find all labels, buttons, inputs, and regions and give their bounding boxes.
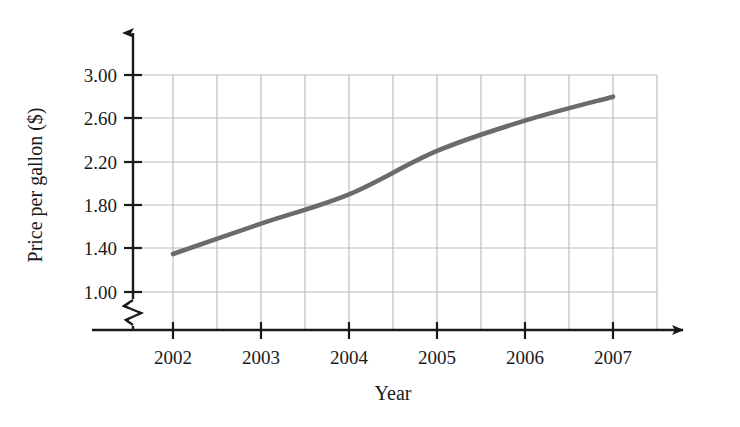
x-tick-label: 2002: [154, 347, 192, 368]
x-tick-label: 2006: [506, 347, 544, 368]
y-tick-label: 2.20: [84, 152, 117, 173]
y-tick-label: 2.60: [84, 108, 117, 129]
y-tick-label: 3.00: [84, 65, 117, 86]
line-chart: 3.00 2.60 2.20 1.80 1.40 1.00 2002 2003 …: [0, 0, 740, 427]
y-tick-labels: 3.00 2.60 2.20 1.80 1.40 1.00: [84, 65, 117, 303]
x-axis-title: Year: [375, 382, 412, 404]
x-tick-label: 2007: [594, 347, 632, 368]
x-tick-label: 2005: [418, 347, 456, 368]
x-tick-label: 2003: [242, 347, 280, 368]
x-tick-labels: 2002 2003 2004 2005 2006 2007: [154, 347, 632, 368]
grid-lines: [133, 75, 657, 330]
y-tick-label: 1.40: [84, 238, 117, 259]
chart-canvas: 3.00 2.60 2.20 1.80 1.40 1.00 2002 2003 …: [0, 0, 740, 427]
x-tick-label: 2004: [330, 347, 369, 368]
y-axis-title: Price per gallon ($): [24, 108, 47, 263]
y-tick-label: 1.00: [84, 282, 117, 303]
axis-lines: [92, 33, 683, 330]
y-tick-label: 1.80: [84, 195, 117, 216]
